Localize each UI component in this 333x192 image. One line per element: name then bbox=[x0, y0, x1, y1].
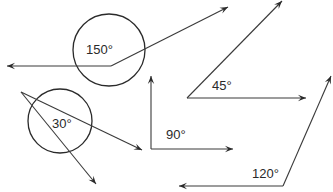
ray bbox=[187, 1, 282, 98]
diagram-canvas: 150°30°90°45°120° bbox=[0, 0, 333, 192]
angle-120: 120° bbox=[179, 76, 331, 189]
ray bbox=[283, 76, 331, 186]
angle-label: 45° bbox=[212, 78, 232, 93]
angles-diagram: 150°30°90°45°120° bbox=[0, 0, 333, 192]
angle-150: 150° bbox=[7, 7, 228, 86]
ray bbox=[111, 7, 228, 66]
angle-30: 30° bbox=[21, 89, 142, 184]
angle-45: 45° bbox=[187, 1, 306, 101]
angle-label: 30° bbox=[52, 116, 72, 131]
angle-label: 150° bbox=[86, 42, 113, 57]
angle-label: 120° bbox=[252, 166, 279, 181]
ray bbox=[21, 92, 142, 150]
angle-label: 90° bbox=[166, 127, 186, 142]
